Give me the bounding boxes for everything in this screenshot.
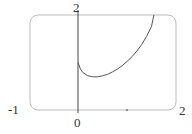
function-curve xyxy=(78,15,154,77)
graph-canvas xyxy=(0,0,192,134)
x-origin-label: 0 xyxy=(74,116,81,129)
x-min-label: -1 xyxy=(8,103,19,116)
y-max-label: 2 xyxy=(73,1,80,14)
plot-frame xyxy=(30,15,176,110)
x-max-label: 2 xyxy=(179,104,186,117)
